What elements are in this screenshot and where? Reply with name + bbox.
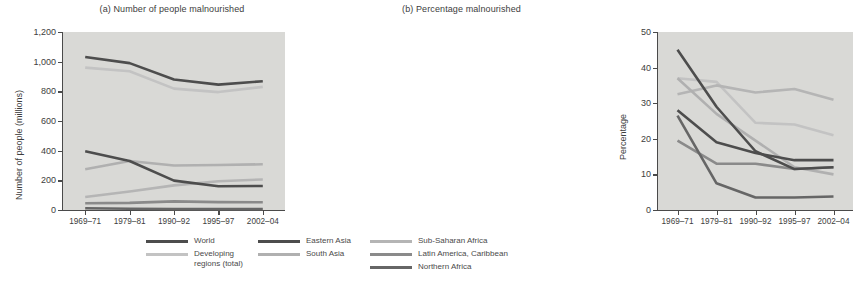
x-tick [85, 210, 86, 215]
x-tick-label: 1979–81 [114, 217, 146, 226]
x-tick [263, 210, 264, 215]
legend-column-1: WorldDeveloping regions (total) [146, 236, 261, 271]
y-tick-label: 400 [41, 146, 56, 156]
series-line [85, 161, 263, 169]
legend-item-label: World [194, 236, 215, 246]
legend-item-label: South Asia [306, 249, 344, 259]
x-tick-label: 1969–71 [69, 217, 101, 226]
legend-swatch-icon [370, 266, 412, 269]
x-tick [174, 210, 175, 215]
panel-a-title: (a) Number of people malnourished [0, 4, 322, 14]
x-tick-label: 1979–81 [701, 217, 733, 226]
x-tick-label: 1995–97 [202, 217, 234, 226]
x-tick [834, 210, 835, 215]
x-tick [717, 210, 718, 215]
legend-swatch-icon [258, 240, 300, 243]
y-tick-label: 600 [41, 116, 56, 126]
y-tick-label: 1,000 [33, 57, 56, 67]
series-line [85, 179, 263, 197]
legend-item-label: Northern Africa [418, 262, 471, 272]
legend-column-2: Eastern AsiaSouth Asia [258, 236, 373, 262]
legend-swatch-icon [146, 240, 188, 243]
legend-item[interactable]: Eastern Asia [258, 236, 373, 249]
legend-item[interactable]: Latin America, Caribbean [370, 249, 550, 262]
x-tick-label: 2002–04 [818, 217, 850, 226]
chart-legend: WorldDeveloping regions (total) Eastern … [0, 236, 591, 288]
panel-a-y-axis-title: Number of people (millions) [14, 90, 24, 200]
panel-b-plot-area: 01020304050 1969–711979–811990–921995–97… [658, 32, 853, 210]
x-tick-label: 1990–92 [740, 217, 772, 226]
chart-panel-a: (a) Number of people malnourished Number… [0, 0, 300, 235]
panel-a-series-lines [63, 32, 285, 210]
legend-item-label: Eastern Asia [306, 236, 351, 246]
y-tick-label: 0 [51, 205, 56, 215]
series-line [85, 208, 263, 209]
legend-item-label: Sub-Saharan Africa [418, 236, 487, 246]
y-tick [653, 210, 658, 211]
panel-b-title: (b) Percentage malnourished [300, 4, 607, 14]
series-line [678, 85, 834, 99]
legend-item[interactable]: Northern Africa [370, 262, 550, 275]
panel-b-series-lines [658, 32, 853, 210]
x-tick [678, 210, 679, 215]
x-tick-label: 1969–71 [662, 217, 694, 226]
x-tick [218, 210, 219, 215]
y-tick-label: 800 [41, 86, 56, 96]
x-tick [756, 210, 757, 215]
legend-item[interactable]: World [146, 236, 261, 249]
legend-item[interactable]: South Asia [258, 249, 373, 262]
legend-item-label: Latin America, Caribbean [418, 249, 508, 259]
legend-swatch-icon [370, 253, 412, 256]
x-tick [795, 210, 796, 215]
series-line [678, 50, 834, 169]
y-tick-label: 200 [41, 175, 56, 185]
y-tick-label: 10 [641, 169, 651, 179]
x-tick [130, 210, 131, 215]
y-tick [58, 210, 63, 211]
legend-swatch-icon [258, 253, 300, 256]
legend-column-3: Sub-Saharan AfricaLatin America, Caribbe… [370, 236, 550, 275]
legend-swatch-icon [146, 253, 188, 256]
chart-panel-b: (b) Percentage malnourished Percentage 0… [300, 0, 591, 235]
y-tick-label: 20 [641, 134, 651, 144]
panel-a-plot-area: 02004006008001,0001,200 1969–711979–8119… [63, 32, 285, 210]
y-tick-label: 0 [646, 205, 651, 215]
series-line [678, 78, 834, 135]
legend-swatch-icon [370, 240, 412, 243]
y-tick-label: 50 [641, 27, 651, 37]
legend-item[interactable]: Sub-Saharan Africa [370, 236, 550, 249]
legend-item-label: Developing regions (total) [194, 249, 243, 268]
x-tick-label: 2002–04 [247, 217, 279, 226]
series-line [85, 201, 263, 203]
legend-item[interactable]: Developing regions (total) [146, 249, 261, 271]
y-tick-label: 1,200 [33, 27, 56, 37]
x-tick-label: 1995–97 [779, 217, 811, 226]
y-tick-label: 40 [641, 63, 651, 73]
y-tick-label: 30 [641, 98, 651, 108]
x-tick-label: 1990–92 [158, 217, 190, 226]
panel-b-y-axis-title: Percentage [618, 114, 628, 160]
